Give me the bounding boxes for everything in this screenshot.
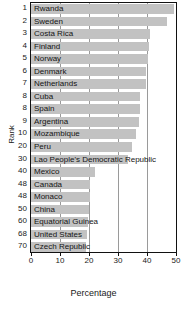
rank-tick-label: 5 [8, 52, 29, 65]
x-tick-label: 10 [56, 256, 65, 265]
bar-category-label: Netherlands [34, 78, 77, 91]
bar-row: Peru [31, 141, 176, 154]
rank-tick-label: 50 [8, 203, 29, 216]
bar-row: Rwanda [31, 3, 176, 16]
rank-tick-label: 60 [8, 215, 29, 228]
bar-row: Cuba [31, 91, 176, 104]
bar-category-label: Monaco [34, 191, 62, 204]
bar-row: Equatorial Guinea [31, 216, 176, 229]
rank-tick-label: 1 [8, 2, 29, 15]
bar-category-label: Equatorial Guinea [34, 216, 98, 229]
bar-category-label: Spain [34, 103, 54, 116]
bar-row: Sweden [31, 16, 176, 29]
bar-category-label: Peru [34, 141, 51, 154]
bar-category-label: Rwanda [34, 3, 63, 16]
rank-tick-label: 7 [8, 77, 29, 90]
bar-row: Denmark [31, 66, 176, 79]
rank-tick-label: 70 [8, 240, 29, 253]
rank-tick-label: 4 [8, 40, 29, 53]
x-tick-label: 20 [85, 256, 94, 265]
horizontal-bar-chart: Rank 123456788910203040484850606870 Rwan… [0, 0, 187, 309]
rank-tick-label: 30 [8, 153, 29, 166]
bar-row: Finland [31, 41, 176, 54]
rank-tick-label: 48 [8, 190, 29, 203]
rank-tick-label: 8 [8, 90, 29, 103]
bar-category-label: Costa Rica [34, 28, 73, 41]
bar-category-label: China [34, 204, 55, 217]
bar-category-label: Mozambique [34, 128, 80, 141]
rank-tick-label: 9 [8, 115, 29, 128]
bar-row: United States [31, 229, 176, 242]
x-axis-title: Percentage [0, 288, 187, 298]
rank-tick-label: 6 [8, 65, 29, 78]
rank-tick-label: 48 [8, 178, 29, 191]
x-tick-label: 0 [29, 256, 33, 265]
rank-tick-label: 3 [8, 27, 29, 40]
rank-tick-label: 8 [8, 102, 29, 115]
bar-category-label: Cuba [34, 91, 53, 104]
bar-category-label: Norway [34, 53, 61, 66]
bar-row: Monaco [31, 191, 176, 204]
bar-row: Argentina [31, 116, 176, 129]
bar-row: Norway [31, 53, 176, 66]
rank-tick-label: 2 [8, 15, 29, 28]
bar-row: Canada [31, 179, 176, 192]
x-axis-ticks: 01020304050 [0, 253, 187, 265]
rank-axis-labels: 123456788910203040484850606870 [8, 2, 29, 253]
rank-tick-label: 20 [8, 140, 29, 153]
x-tick-label: 30 [114, 256, 123, 265]
bar-category-label: Lao People's Democratic Republic [34, 154, 156, 167]
bar-series: RwandaSwedenCosta RicaFinlandNorwayDenma… [31, 3, 176, 252]
bar-category-label: Argentina [34, 116, 68, 129]
bar-category-label: United States [34, 229, 82, 242]
bar-row: Costa Rica [31, 28, 176, 41]
bar-category-label: Canada [34, 179, 62, 192]
rank-tick-label: 40 [8, 165, 29, 178]
bar-category-label: Denmark [34, 66, 66, 79]
bar-row: Mozambique [31, 128, 176, 141]
bar-row: Mexico [31, 166, 176, 179]
x-tick-label: 50 [172, 256, 181, 265]
rank-tick-label: 68 [8, 228, 29, 241]
bar-row: China [31, 204, 176, 217]
bar-row: Netherlands [31, 78, 176, 91]
bar-row: Lao People's Democratic Republic [31, 154, 176, 167]
bar-category-label: Mexico [34, 166, 59, 179]
plot-area: RwandaSwedenCosta RicaFinlandNorwayDenma… [30, 2, 177, 253]
rank-tick-label: 10 [8, 127, 29, 140]
bar-category-label: Sweden [34, 16, 63, 29]
bar-category-label: Finland [34, 41, 60, 54]
x-tick-label: 40 [143, 256, 152, 265]
bar-row: Spain [31, 103, 176, 116]
